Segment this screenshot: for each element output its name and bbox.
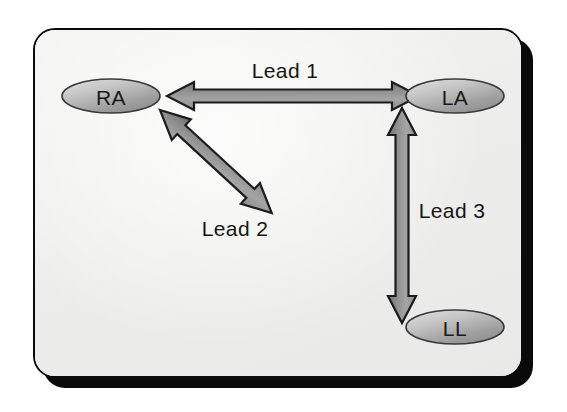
diagram-stage: Lead 1 Lead 3 Lead 2 RA LA LL [0, 0, 567, 412]
node-LL-label: LL [443, 317, 467, 340]
lead-3-label: Lead 3 [419, 199, 486, 222]
lead-3-shape [388, 108, 416, 323]
einthoven-triangle-svg: Lead 1 Lead 3 Lead 2 RA LA LL [0, 0, 567, 412]
lead-1-arrow [167, 82, 419, 110]
lead-3-arrow [388, 108, 416, 323]
node-LA-label: LA [442, 86, 469, 109]
lead-2-label: Lead 2 [202, 217, 269, 240]
lead-1-label: Lead 1 [252, 59, 319, 82]
node-LL: LL [406, 310, 504, 344]
node-RA: RA [62, 79, 160, 113]
node-LA: LA [406, 79, 504, 113]
node-RA-label: RA [96, 86, 126, 109]
lead-2-arrow [151, 100, 282, 224]
lead-1-shape [167, 82, 419, 110]
lead-2-shape [151, 100, 282, 224]
